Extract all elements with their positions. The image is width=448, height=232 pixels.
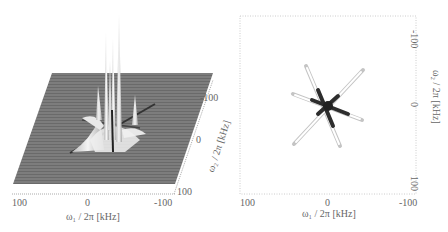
x-tick-right: -100 [154, 197, 172, 208]
x-tick-left: 100 [12, 197, 27, 208]
contour-plot-panel: 100 0 -100 ω₁ / 2π [kHz] -100 0 100 ω₂ /… [224, 0, 448, 232]
surface-plot-graphic [0, 0, 224, 232]
x-tick-center: 0 [85, 197, 90, 208]
x-axis-label: ω₁ / 2π [kHz] [66, 211, 120, 222]
y-tick-top: -100 [409, 30, 420, 48]
y-tick-center: 0 [409, 102, 420, 107]
y-tick-bottom: 100 [177, 186, 192, 197]
y-tick-center: 0 [196, 134, 201, 145]
y-axis-label: ω₂ / 2π [kHz] [431, 70, 442, 124]
x-tick-left: 100 [240, 197, 255, 208]
surface-plot-panel: 100 0 -100 ω₁ / 2π [kHz] -100 0 100 ω₂ /… [0, 0, 224, 232]
x-tick-center: 0 [325, 197, 330, 208]
y-tick-bottom: 100 [409, 176, 420, 191]
y-tick-top: -100 [200, 92, 218, 103]
x-axis-label: ω₁ / 2π [kHz] [302, 208, 356, 219]
x-tick-right: -100 [399, 197, 417, 208]
